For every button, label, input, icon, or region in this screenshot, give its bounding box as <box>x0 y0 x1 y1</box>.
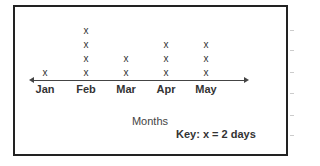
data-marker-x: x <box>161 54 171 64</box>
category-label-apr: Apr <box>146 83 186 95</box>
category-label-feb: Feb <box>66 83 106 95</box>
data-marker-x: x <box>81 26 91 36</box>
chart-key: Key: x = 2 days <box>176 128 256 140</box>
data-marker-x: x <box>81 68 91 78</box>
data-marker-x: x <box>201 54 211 64</box>
right-edge-ticks <box>290 5 294 156</box>
data-marker-x: x <box>121 68 131 78</box>
data-marker-x: x <box>161 40 171 50</box>
data-marker-x: x <box>201 68 211 78</box>
data-marker-x: x <box>40 68 50 78</box>
data-marker-x: x <box>81 54 91 64</box>
arrow-right-icon <box>244 77 249 83</box>
category-label-mar: Mar <box>106 83 146 95</box>
x-axis-title: Months <box>110 115 190 127</box>
data-marker-x: x <box>201 40 211 50</box>
number-line-axis <box>32 80 244 81</box>
data-marker-x: x <box>121 54 131 64</box>
category-label-jan: Jan <box>25 83 65 95</box>
data-marker-x: x <box>161 68 171 78</box>
category-label-may: May <box>186 83 226 95</box>
data-marker-x: x <box>81 40 91 50</box>
